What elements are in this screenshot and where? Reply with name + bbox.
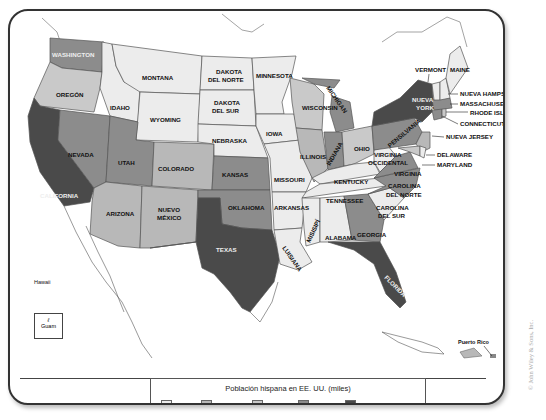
- us-choropleth-map: WASHINGTON OREGÓN CALIFORNIA NEVADA IDAH…: [10, 11, 503, 403]
- label-carolina-sur-2: DEL SUR: [378, 212, 406, 219]
- label-rhode-island: RHODE ISLAND: [470, 109, 503, 116]
- label-arizona: ARIZONA: [106, 210, 135, 217]
- label-virginia-occ-1: VIRGINIA: [374, 151, 402, 158]
- label-puerto-rico: Puerto Rico: [458, 339, 490, 345]
- label-vermont: VERMONT: [415, 66, 446, 73]
- label-nuevo-mexico-1: NUEVO: [158, 206, 180, 213]
- copyright-credit: © John Wiley & Sons, Inc.: [527, 320, 534, 390]
- label-tennessee: TENNESSEE: [326, 197, 363, 204]
- label-oregon: OREGÓN: [56, 91, 84, 98]
- state-delaware: [420, 146, 426, 158]
- label-nebraska: NEBRASKA: [212, 137, 248, 144]
- label-wisconsin: WISCONSIN: [302, 104, 338, 111]
- legend-items: 0–100 501–1,000 101–250 251–500 >1,000: [161, 400, 378, 405]
- label-alabama: ALABAMA: [325, 234, 357, 241]
- label-washington: WASHINGTON: [52, 51, 95, 58]
- label-california: CALIFORNIA: [40, 192, 79, 199]
- label-carolina-norte-2: DEL NORTE: [386, 191, 422, 198]
- label-utah: UTAH: [118, 159, 135, 166]
- label-nueva-york-1: NUEVA: [412, 96, 434, 103]
- label-carolina-norte-1: CAROLINA: [388, 182, 421, 189]
- label-montana: MONTANA: [142, 74, 174, 81]
- legend-label: >1,000: [360, 402, 379, 405]
- legend-item: 101–250: [252, 400, 290, 405]
- label-idaho: IDAHO: [110, 104, 130, 111]
- label-massachusetts: MASSACHUSETTS: [460, 100, 503, 107]
- legend-swatch: [345, 400, 356, 405]
- legend-swatch: [201, 400, 212, 405]
- label-dakota-sur-1: DAKOTA: [214, 99, 241, 106]
- label-minnesota: MINNESOTA: [256, 72, 293, 79]
- label-nueva-york-2: YORK: [416, 104, 434, 111]
- legend-label: 251–500: [313, 402, 336, 405]
- guam-inset: ℓ Guam: [34, 313, 63, 339]
- state-iowa: [256, 114, 300, 144]
- label-delaware: DELAWARE: [437, 151, 472, 158]
- label-nuevo-mexico-2: MÉXICO: [157, 214, 182, 221]
- label-dakota-norte-1: DAKOTA: [216, 68, 243, 75]
- label-missouri: MISSOURI: [274, 176, 305, 183]
- label-virginia-occ-2: OCCIDENTAL: [368, 159, 408, 166]
- legend-label: 101–250: [267, 402, 290, 405]
- state-florida: [328, 242, 406, 308]
- label-maryland: MARYLAND: [437, 161, 473, 168]
- label-wyoming: WYOMING: [150, 116, 181, 123]
- legend-item: >1,000: [345, 400, 379, 405]
- legend-swatch: [252, 400, 263, 405]
- legend-item: 501–1,000: [201, 400, 244, 405]
- label-colorado: COLORADO: [158, 165, 194, 172]
- map-frame: WASHINGTON OREGÓN CALIFORNIA NEVADA IDAH…: [8, 9, 505, 405]
- label-ohio: OHIO: [354, 145, 370, 152]
- label-dakota-sur-2: DEL SUR: [212, 107, 240, 114]
- label-dakota-norte-2: DEL NORTE: [208, 76, 244, 83]
- label-connecticut: CONNECTICUT: [460, 120, 503, 127]
- legend-title: Población hispana en EE. UU. (miles): [151, 384, 425, 393]
- label-guam: Guam: [35, 323, 62, 329]
- label-illinois: ILLINOIS: [300, 153, 326, 160]
- label-virginia: VIRGINIA: [394, 170, 422, 177]
- label-oklahoma: OKLAHOMA: [228, 204, 265, 211]
- legend-swatch: [298, 400, 309, 405]
- state-arkansas: [272, 192, 306, 230]
- legend: Población hispana en EE. UU. (miles) 0–1…: [150, 378, 426, 405]
- label-carolina-sur-1: CAROLINA: [376, 204, 409, 211]
- label-kentucky: KENTUCKY: [334, 178, 369, 185]
- label-nueva-jersey: NUEVA JERSEY: [446, 133, 494, 140]
- label-hawaii: Hawaii: [34, 279, 51, 285]
- puerto-rico-region: [460, 348, 482, 358]
- label-georgia: GEORGIA: [357, 231, 387, 238]
- label-nueva-hampshire: NUEVA HAMPSHIRE: [460, 90, 503, 97]
- legend-item: 0–100: [161, 400, 193, 405]
- label-nevada: NEVADA: [68, 151, 94, 158]
- legend-label: 0–100: [176, 402, 193, 405]
- state-minnesota: [252, 56, 296, 114]
- label-texas: TEXAS: [216, 246, 237, 253]
- state-nueva-york: [372, 80, 434, 126]
- legend-item: 251–500: [298, 400, 336, 405]
- label-maine: MAINE: [450, 66, 470, 73]
- legend-swatch: [161, 400, 172, 405]
- legend-label: 501–1,000: [216, 402, 244, 405]
- label-arkansas: ARKANSAS: [274, 204, 309, 211]
- label-kansas: KANSAS: [222, 171, 248, 178]
- label-iowa: IOWA: [266, 130, 283, 137]
